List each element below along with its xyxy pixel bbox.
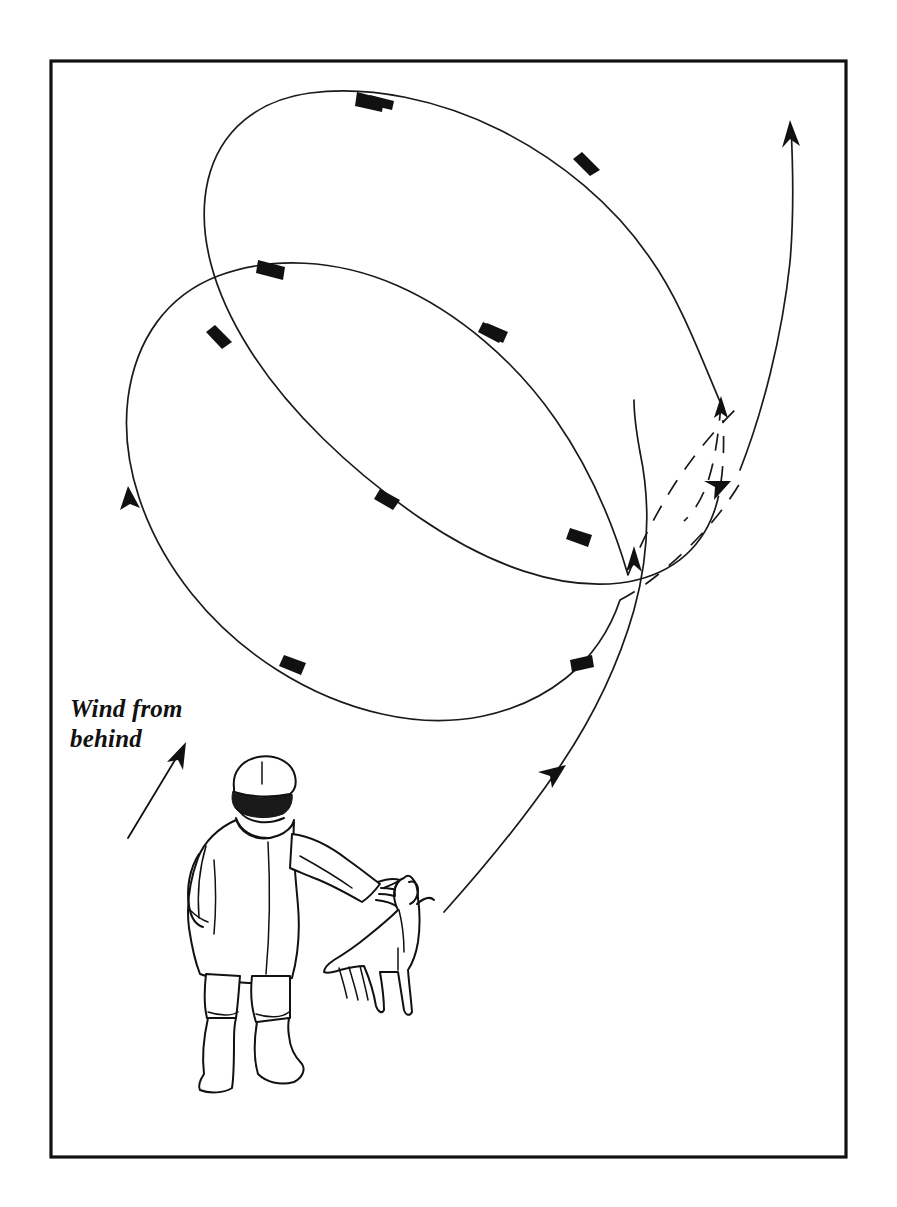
figure-border xyxy=(51,61,846,1157)
flyer-jacket xyxy=(188,820,299,983)
wind-direction-label: Wind from behind xyxy=(70,694,300,754)
diagram-canvas xyxy=(0,0,897,1207)
kite-diagram-figure: Wind from behind xyxy=(0,0,897,1207)
